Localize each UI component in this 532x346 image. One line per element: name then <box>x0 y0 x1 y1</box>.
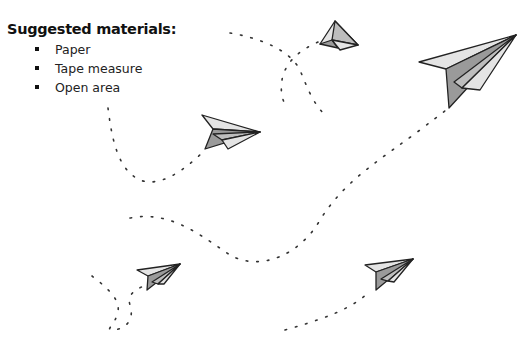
flight-trail <box>281 42 318 104</box>
list-item: Open area <box>7 78 176 97</box>
list-item-label: Open area <box>55 80 120 95</box>
list-item: Tape measure <box>7 59 176 78</box>
list-item-label: Tape measure <box>55 61 142 76</box>
square-bullet-icon <box>35 47 39 51</box>
paper-plane-top-right-large <box>419 35 516 108</box>
paper-plane-top-center <box>320 21 358 50</box>
paper-plane-bottom-right <box>365 259 413 290</box>
paper-plane-middle <box>202 115 260 149</box>
materials-heading: Suggested materials: <box>7 20 176 38</box>
paper-plane-bottom-left <box>137 264 180 290</box>
suggested-materials: Suggested materials: Paper Tape measure … <box>7 20 176 97</box>
materials-list: Paper Tape measure Open area <box>7 40 176 97</box>
flight-trail <box>130 110 446 262</box>
flight-trail <box>108 108 205 182</box>
square-bullet-icon <box>35 85 39 89</box>
flight-trail <box>285 293 368 330</box>
list-item-label: Paper <box>55 42 90 57</box>
flight-trail <box>230 33 325 115</box>
list-item: Paper <box>7 40 176 59</box>
flight-trail <box>92 276 150 330</box>
square-bullet-icon <box>35 66 39 70</box>
